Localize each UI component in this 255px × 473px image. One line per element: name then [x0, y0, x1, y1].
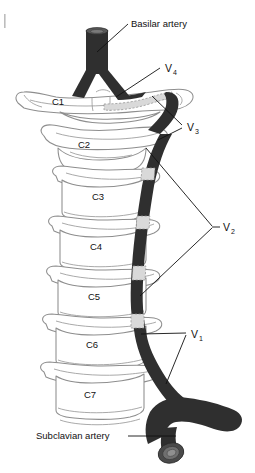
label-c6: C6 — [86, 339, 98, 350]
page-edge-mark — [4, 14, 6, 28]
anatomy-illustration: Basilar artery V 4 V 3 V 2 V 1 C1 C2 C3 … — [0, 0, 255, 473]
label-v2-subscript: 2 — [231, 228, 235, 235]
label-v2: V — [223, 221, 230, 233]
label-v3: V — [187, 121, 194, 133]
label-c2: C2 — [78, 139, 90, 150]
label-c3: C3 — [92, 191, 104, 202]
label-v4: V — [165, 62, 172, 74]
label-v3-subscript: 3 — [195, 128, 199, 135]
label-c4: C4 — [90, 241, 102, 252]
label-c5: C5 — [88, 291, 100, 302]
label-v4-subscript: 4 — [173, 69, 177, 76]
v2-foramen-gap-c4 — [136, 216, 150, 229]
label-v1-subscript: 1 — [199, 335, 203, 342]
vertebral-artery-diagram: Basilar artery V 4 V 3 V 2 V 1 C1 C2 C3 … — [0, 0, 255, 473]
label-basilar-artery: Basilar artery — [131, 18, 187, 29]
label-c1: C1 — [52, 96, 64, 107]
label-subclavian-artery: Subclavian artery — [36, 430, 110, 441]
v2-foramen-gap-c5 — [132, 266, 146, 280]
basilar-lumen — [91, 30, 104, 34]
v2-foramen-gap-c3 — [141, 168, 155, 180]
label-v1: V — [191, 328, 198, 340]
label-c7: C7 — [84, 389, 96, 400]
v2-foramen-gap-c6 — [131, 314, 144, 328]
